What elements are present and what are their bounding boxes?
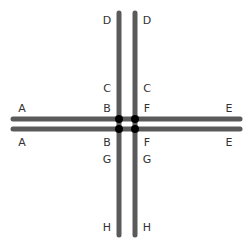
label-h: H	[103, 221, 111, 234]
label-h: H	[143, 221, 151, 234]
label-e: E	[226, 102, 233, 115]
label-c: C	[103, 82, 111, 95]
node-top-left	[115, 115, 123, 123]
node-bottom-right	[131, 125, 139, 133]
label-g: G	[103, 153, 112, 166]
label-a: A	[18, 136, 26, 149]
label-b: B	[103, 136, 111, 149]
label-f: F	[144, 136, 150, 149]
label-c: C	[143, 82, 151, 95]
node-top-right	[131, 115, 139, 123]
labels-layer: DDCCABFEABFEGGHH	[18, 14, 232, 234]
label-d: D	[143, 14, 151, 27]
diagram-canvas: DDCCABFEABFEGGHH	[0, 0, 248, 241]
intersection-diagram: DDCCABFEABFEGGHH	[0, 0, 248, 241]
label-b: B	[103, 102, 111, 115]
node-bottom-left	[115, 125, 123, 133]
label-d: D	[103, 14, 111, 27]
lines-layer	[13, 13, 240, 235]
label-a: A	[18, 102, 26, 115]
label-e: E	[226, 136, 233, 149]
label-f: F	[144, 102, 150, 115]
label-g: G	[143, 153, 152, 166]
